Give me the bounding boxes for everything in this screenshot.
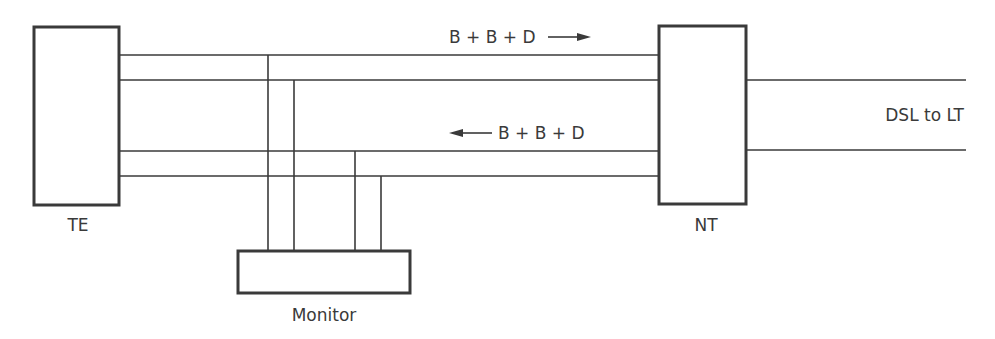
nt-block	[659, 26, 746, 204]
te-block	[34, 27, 119, 205]
dsl-line-label: DSL to LT	[885, 105, 964, 125]
upstream-signal-label: B + B + D	[449, 27, 536, 47]
monitor-label: Monitor	[292, 305, 357, 325]
right-arrow-icon	[548, 33, 591, 41]
nt-label: NT	[694, 215, 718, 235]
te-label: TE	[66, 215, 88, 235]
downstream-signal-label: B + B + D	[498, 123, 585, 143]
left-arrow-icon	[449, 129, 492, 137]
isdn-monitor-diagram: B + B + D B + B + D TE NT Monitor DSL to…	[0, 0, 995, 339]
monitor-block	[238, 251, 410, 293]
